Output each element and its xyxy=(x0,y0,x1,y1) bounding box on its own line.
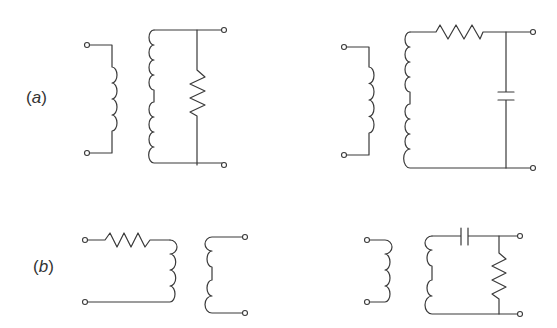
terminal-icon xyxy=(243,235,248,240)
primary-coil-icon xyxy=(369,240,392,302)
terminal-icon xyxy=(222,163,227,168)
circuit-b-right xyxy=(365,228,523,317)
resistor-icon xyxy=(190,30,205,165)
terminal-icon xyxy=(85,151,90,156)
terminal-icon xyxy=(342,153,347,158)
terminal-icon xyxy=(518,234,523,239)
resistor-icon xyxy=(410,25,531,39)
terminal-icon xyxy=(531,166,536,171)
terminal-icon xyxy=(222,28,227,33)
terminal-icon xyxy=(365,300,370,305)
primary-coil-icon xyxy=(87,240,177,302)
resistor-icon xyxy=(87,233,170,247)
resistor-icon xyxy=(492,236,506,314)
circuit-b-left xyxy=(83,233,248,316)
secondary-coil-icon xyxy=(425,236,518,314)
terminal-icon xyxy=(365,238,370,243)
terminal-icon xyxy=(243,311,248,316)
terminal-icon xyxy=(518,312,523,317)
terminal-icon xyxy=(83,300,88,305)
circuit-diagram xyxy=(0,0,557,328)
primary-coil-icon xyxy=(346,47,374,155)
primary-coil-icon xyxy=(89,45,117,153)
terminal-icon xyxy=(85,43,90,48)
secondary-coil-icon xyxy=(149,30,222,163)
secondary-coil-icon xyxy=(205,237,243,313)
terminal-icon xyxy=(342,45,347,50)
terminal-icon xyxy=(83,238,88,243)
circuit-a-left xyxy=(85,28,227,168)
capacitor-icon xyxy=(432,228,518,245)
terminal-icon xyxy=(531,30,536,35)
capacitor-icon xyxy=(498,32,514,168)
circuit-a-right xyxy=(342,25,536,171)
